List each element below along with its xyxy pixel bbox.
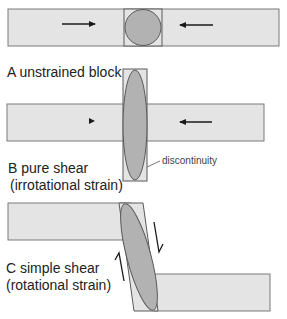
block-lower-right: [154, 274, 270, 311]
caption-panel-b-subtitle: (irrotational strain): [10, 177, 123, 194]
shear-arrow-down-icon: [154, 222, 163, 252]
discontinuity-label: discontinuity: [162, 155, 217, 166]
caption-panel-c-subtitle: (rotational strain): [6, 277, 111, 294]
strain-ellipse-vertical: [123, 70, 147, 180]
panel-c-simple-shear: [8, 201, 270, 313]
panel-a-unstrained: [8, 9, 279, 46]
discontinuity-leader-line: [147, 161, 160, 167]
shear-arrow-up-icon: [115, 253, 124, 281]
caption-panel-b-title: B pure shear: [8, 160, 88, 177]
block-upper-left: [8, 203, 131, 240]
strain-circle: [125, 10, 161, 46]
caption-panel-a: A unstrained block: [7, 64, 121, 81]
caption-panel-c-title: C simple shear: [6, 260, 99, 277]
